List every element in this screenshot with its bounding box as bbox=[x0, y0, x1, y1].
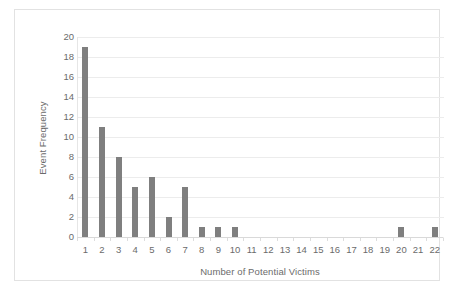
x-axis-tickmark bbox=[127, 238, 128, 241]
y-axis-tick-label: 18 bbox=[48, 52, 74, 62]
x-axis-tickmark bbox=[293, 238, 294, 241]
x-axis-tickmark bbox=[277, 238, 278, 241]
chart-frame: Event Frequency 02468101214161820 123456… bbox=[14, 9, 440, 281]
x-axis-tickmark bbox=[426, 238, 427, 241]
x-axis-tickmark bbox=[227, 238, 228, 241]
x-axis-tick-label: 13 bbox=[277, 243, 294, 257]
y-axis-tick-label: 2 bbox=[48, 212, 74, 222]
y-axis-tick-label: 10 bbox=[48, 132, 74, 142]
x-axis-tick-label: 9 bbox=[210, 243, 227, 257]
y-axis-tick-label: 4 bbox=[48, 192, 74, 202]
x-axis-tickmarks bbox=[77, 238, 443, 242]
x-axis-tick-label: 5 bbox=[144, 243, 161, 257]
bar-series bbox=[77, 37, 443, 237]
bar bbox=[199, 227, 205, 237]
x-axis-tick-label: 3 bbox=[110, 243, 127, 257]
x-axis-tick-label: 4 bbox=[127, 243, 144, 257]
bar bbox=[432, 227, 438, 237]
x-axis-tickmark bbox=[160, 238, 161, 241]
bar bbox=[99, 127, 105, 237]
bar bbox=[182, 187, 188, 237]
x-axis-tick-label: 12 bbox=[260, 243, 277, 257]
bar bbox=[82, 47, 88, 237]
x-axis-tickmark bbox=[376, 238, 377, 241]
x-axis-tickmark bbox=[144, 238, 145, 241]
x-axis-tick-label: 6 bbox=[160, 243, 177, 257]
x-axis-tick-label: 18 bbox=[360, 243, 377, 257]
x-axis-tickmark bbox=[243, 238, 244, 241]
x-axis-tickmark bbox=[310, 238, 311, 241]
x-axis-tickmark bbox=[260, 238, 261, 241]
y-axis-tick-labels: 02468101214161820 bbox=[48, 30, 74, 244]
y-axis-tick-label: 14 bbox=[48, 92, 74, 102]
bar bbox=[215, 227, 221, 237]
x-axis-tickmark bbox=[360, 238, 361, 241]
x-axis-tickmark bbox=[327, 238, 328, 241]
x-axis-tick-label: 1 bbox=[77, 243, 94, 257]
x-axis-tick-label: 19 bbox=[376, 243, 393, 257]
x-axis-tick-label: 16 bbox=[327, 243, 344, 257]
x-axis-tick-label: 20 bbox=[393, 243, 410, 257]
y-axis-tick-label: 20 bbox=[48, 32, 74, 42]
bar bbox=[132, 187, 138, 237]
x-axis-tick-label: 17 bbox=[343, 243, 360, 257]
bar bbox=[398, 227, 404, 237]
x-axis-tick-labels: 12345678910111213141516171819202122 bbox=[77, 243, 443, 259]
x-axis-tickmark bbox=[410, 238, 411, 241]
x-axis-tick-label: 11 bbox=[243, 243, 260, 257]
x-axis-tick-label: 2 bbox=[94, 243, 111, 257]
x-axis-tick-label: 22 bbox=[426, 243, 443, 257]
x-axis-tick-label: 7 bbox=[177, 243, 194, 257]
bar bbox=[149, 177, 155, 237]
x-axis-tickmark bbox=[177, 238, 178, 241]
x-axis-tickmark bbox=[193, 238, 194, 241]
x-axis-tickmark bbox=[77, 238, 78, 241]
x-axis-tick-label: 15 bbox=[310, 243, 327, 257]
y-axis-tick-label: 16 bbox=[48, 72, 74, 82]
x-axis-tick-label: 8 bbox=[193, 243, 210, 257]
bar bbox=[166, 217, 172, 237]
x-axis-tickmark bbox=[343, 238, 344, 241]
x-axis-tick-label: 14 bbox=[293, 243, 310, 257]
y-axis-tick-label: 0 bbox=[48, 232, 74, 242]
x-axis-tick-label: 10 bbox=[227, 243, 244, 257]
bar bbox=[116, 157, 122, 237]
x-axis-tickmark bbox=[110, 238, 111, 241]
y-axis-tick-label: 8 bbox=[48, 152, 74, 162]
x-axis-tickmark bbox=[393, 238, 394, 241]
x-axis-tickmark bbox=[94, 238, 95, 241]
x-axis-tickmark bbox=[210, 238, 211, 241]
x-axis-tickmark bbox=[443, 238, 444, 241]
y-axis-tick-label: 6 bbox=[48, 172, 74, 182]
bar bbox=[232, 227, 238, 237]
y-axis-tick-label: 12 bbox=[48, 112, 74, 122]
x-axis-title: Number of Potential Victims bbox=[77, 266, 443, 277]
x-axis-tick-label: 21 bbox=[410, 243, 427, 257]
